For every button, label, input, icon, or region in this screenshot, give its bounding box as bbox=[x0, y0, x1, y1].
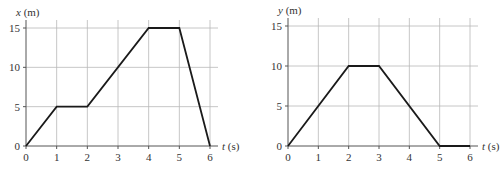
y-tick-label: 5 bbox=[15, 101, 21, 113]
y-tick-label: 5 bbox=[277, 100, 283, 112]
x-axis-label: t (s) bbox=[222, 140, 240, 153]
x-tick-label: 6 bbox=[467, 151, 473, 163]
y-tick-label: 0 bbox=[277, 140, 283, 152]
y-tick-label: 0 bbox=[15, 140, 21, 152]
x-tick-label: 4 bbox=[407, 151, 413, 163]
y-tick-label: 15 bbox=[9, 22, 21, 34]
x-tick-label: 1 bbox=[54, 151, 60, 163]
position-time-graphs: 0123456051015x (m)t (s) 0123456051015y (… bbox=[0, 0, 504, 170]
x-tick-label: 5 bbox=[177, 151, 183, 163]
y-tick-label: 15 bbox=[271, 20, 283, 32]
x-tick-label: 5 bbox=[437, 151, 443, 163]
x-tick-label: 0 bbox=[23, 151, 29, 163]
x-vs-t-chart: 0123456051015x (m)t (s) bbox=[9, 6, 240, 163]
x-tick-label: 1 bbox=[316, 151, 322, 163]
x-tick-label: 2 bbox=[85, 151, 91, 163]
y-vs-t-chart: 0123456051015y (m)t (s) bbox=[271, 4, 500, 163]
x-tick-label: 3 bbox=[376, 151, 382, 163]
y-tick-label: 10 bbox=[9, 61, 21, 73]
y-tick-label: 10 bbox=[271, 60, 283, 72]
x-tick-label: 2 bbox=[346, 151, 352, 163]
x-tick-label: 4 bbox=[146, 151, 152, 163]
x-tick-label: 6 bbox=[207, 151, 213, 163]
y-axis-label: x (m) bbox=[15, 6, 40, 19]
x-tick-label: 0 bbox=[285, 151, 291, 163]
y-axis-label: y (m) bbox=[277, 4, 302, 17]
x-axis-label: t (s) bbox=[482, 140, 500, 153]
x-tick-label: 3 bbox=[115, 151, 121, 163]
